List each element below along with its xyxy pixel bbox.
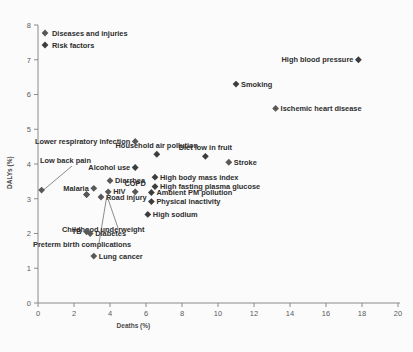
x-tick-label: 10 — [214, 309, 222, 318]
y-tick-label: 7 — [27, 56, 31, 65]
x-tick-label: 16 — [322, 309, 330, 318]
data-point-marker — [132, 164, 139, 171]
data-point-label: High body mass index — [160, 173, 239, 182]
x-tick-label: 20 — [394, 309, 402, 318]
y-tick-label: 5 — [27, 125, 31, 134]
y-tick-label: 0 — [27, 299, 31, 308]
data-point-label: Lung cancer — [99, 252, 143, 261]
x-tick-label: 18 — [358, 309, 366, 318]
data-point-marker — [107, 177, 114, 184]
y-tick-label: 4 — [27, 160, 31, 169]
data-point-label: Ambient PM pollution — [156, 188, 232, 197]
data-point-label: Stroke — [234, 158, 257, 167]
data-point-marker — [38, 187, 45, 194]
y-tick-label: 1 — [27, 264, 31, 273]
x-tick-label: 12 — [250, 309, 258, 318]
y-tick-label: 6 — [27, 90, 31, 99]
x-tick-label: 4 — [108, 309, 112, 318]
data-point-marker — [90, 185, 97, 192]
data-point-marker — [272, 105, 279, 112]
data-point-marker — [90, 253, 97, 260]
data-point-marker — [202, 153, 209, 160]
data-point-marker — [355, 56, 362, 63]
y-tick-label: 8 — [27, 21, 31, 30]
data-point-label: Road injury — [106, 193, 148, 202]
data-point-marker — [225, 159, 232, 166]
data-point-marker — [153, 151, 160, 158]
data-point-label: COPD — [125, 179, 147, 188]
x-tick-label: 14 — [286, 309, 294, 318]
data-point-label: Smoking — [241, 80, 273, 89]
legend-marker — [42, 30, 49, 37]
legend-marker — [42, 42, 49, 49]
data-point-label: Preterm birth complications — [33, 240, 131, 249]
data-point-label: Physical inactivity — [156, 197, 221, 206]
y-tick-label: 2 — [27, 229, 31, 238]
data-point-label: High sodium — [153, 210, 198, 219]
scatter-plot-figure: 02468101214161820012345678Deaths (%)DALY… — [0, 0, 413, 352]
x-tick-label: 0 — [36, 309, 40, 318]
x-tick-label: 6 — [144, 309, 148, 318]
data-point-label: Alcohol use — [88, 163, 130, 172]
data-point-marker — [148, 198, 155, 205]
data-point-marker — [144, 211, 151, 218]
data-point-label: Low back pain — [40, 156, 91, 165]
legend-label: Risk factors — [52, 41, 94, 50]
data-point-label: Ischemic heart disease — [281, 104, 362, 113]
data-point-label: Diabetes — [95, 229, 126, 238]
data-point-label: High blood pressure — [282, 55, 354, 64]
legend-label: Diseases and injuries — [52, 29, 128, 38]
x-tick-label: 2 — [72, 309, 76, 318]
plot-canvas: 02468101214161820012345678Deaths (%)DALY… — [0, 0, 413, 352]
data-point-marker — [152, 174, 159, 181]
data-point-marker — [233, 81, 240, 88]
data-point-label: TB — [72, 227, 82, 236]
data-point-marker — [148, 189, 155, 196]
data-point-label: Diet low in fruit — [179, 143, 233, 152]
y-axis-title: DALYs (%) — [6, 156, 14, 189]
data-point-label: Malaria — [63, 184, 89, 193]
y-tick-label: 3 — [27, 195, 31, 204]
x-tick-label: 8 — [180, 309, 184, 318]
data-point-marker — [98, 194, 105, 201]
x-axis-title: Deaths (%) — [117, 322, 151, 330]
